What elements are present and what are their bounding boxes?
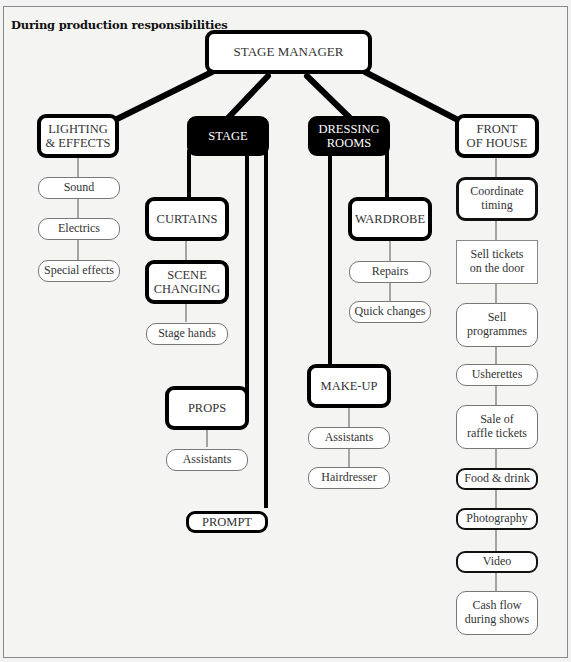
node-prompt[interactable]: PROMPT: [186, 511, 268, 533]
node-makeup-assistants[interactable]: Assistants: [308, 427, 390, 449]
node-label: Electrics: [58, 222, 100, 236]
node-label: Assistants: [325, 431, 374, 445]
node-label: Quick changes: [355, 305, 426, 319]
node-label: Food & drink: [464, 472, 529, 486]
node-raffle-tickets[interactable]: Sale of raffle tickets: [456, 405, 538, 449]
node-label: Photography: [466, 512, 527, 526]
node-props[interactable]: PROPS: [165, 386, 249, 430]
node-quick-changes[interactable]: Quick changes: [349, 301, 431, 323]
node-electrics[interactable]: Electrics: [38, 218, 120, 240]
node-sell-tickets[interactable]: Sell tickets on the door: [456, 240, 538, 284]
node-label: Usherettes: [472, 368, 523, 382]
node-label: Sell tickets on the door: [470, 248, 525, 276]
node-label: SCENE CHANGING: [154, 268, 221, 297]
node-label: PROMPT: [202, 515, 252, 529]
node-label: PROPS: [188, 401, 226, 415]
node-label: FRONT OF HOUSE: [467, 122, 528, 151]
node-make-up[interactable]: MAKE-UP: [307, 364, 391, 408]
node-sound[interactable]: Sound: [38, 177, 120, 199]
node-label: MAKE-UP: [321, 379, 378, 393]
node-photography[interactable]: Photography: [456, 508, 538, 530]
node-label: Stage hands: [158, 327, 216, 341]
node-label: Sale of raffle tickets: [467, 413, 527, 441]
node-label: Repairs: [372, 265, 409, 279]
node-hairdresser[interactable]: Hairdresser: [308, 467, 390, 489]
node-stage-manager[interactable]: STAGE MANAGER: [205, 30, 372, 74]
node-video[interactable]: Video: [456, 551, 538, 573]
node-label: Cash flow during shows: [465, 599, 529, 627]
node-repairs[interactable]: Repairs: [349, 261, 431, 283]
node-label: Special effects: [44, 264, 114, 278]
node-label: STAGE MANAGER: [234, 45, 344, 60]
node-label: DRESSING ROOMS: [318, 122, 379, 151]
node-label: Sell programmes: [467, 311, 527, 339]
node-lighting-effects[interactable]: LIGHTING & EFFECTS: [37, 114, 119, 158]
node-dressing-rooms[interactable]: DRESSING ROOMS: [308, 116, 390, 156]
node-label: Coordinate timing: [470, 185, 523, 213]
node-food-drink[interactable]: Food & drink: [456, 468, 538, 490]
node-label: Hairdresser: [321, 471, 376, 485]
node-cash-flow[interactable]: Cash flow during shows: [456, 591, 538, 635]
node-label: Sound: [64, 181, 95, 195]
node-label: WARDROBE: [355, 212, 425, 226]
node-curtains[interactable]: CURTAINS: [145, 197, 229, 241]
node-stage[interactable]: STAGE: [187, 116, 269, 156]
node-label: LIGHTING & EFFECTS: [46, 122, 111, 151]
node-scene-changing[interactable]: SCENE CHANGING: [145, 260, 229, 304]
node-label: Video: [483, 555, 512, 569]
node-sell-programmes[interactable]: Sell programmes: [456, 303, 538, 347]
node-coordinate-timing[interactable]: Coordinate timing: [456, 177, 538, 221]
node-props-assistants[interactable]: Assistants: [166, 449, 248, 471]
node-label: STAGE: [208, 129, 247, 143]
node-front-of-house[interactable]: FRONT OF HOUSE: [455, 114, 539, 158]
node-stage-hands[interactable]: Stage hands: [146, 323, 228, 345]
node-label: Assistants: [183, 453, 232, 467]
node-special-effects[interactable]: Special effects: [38, 260, 120, 282]
node-usherettes[interactable]: Usherettes: [456, 364, 538, 386]
node-label: CURTAINS: [157, 212, 218, 226]
node-wardrobe[interactable]: WARDROBE: [348, 197, 432, 241]
